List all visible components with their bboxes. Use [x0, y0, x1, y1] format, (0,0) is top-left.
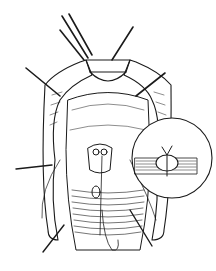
inset-detail	[132, 118, 212, 198]
top-instruments	[26, 14, 165, 96]
bottom-instruments	[16, 165, 152, 252]
organ-ribbing	[72, 190, 144, 235]
illustration-canvas	[0, 0, 216, 271]
surgical-illustration	[0, 0, 216, 271]
suture-site	[88, 144, 112, 235]
